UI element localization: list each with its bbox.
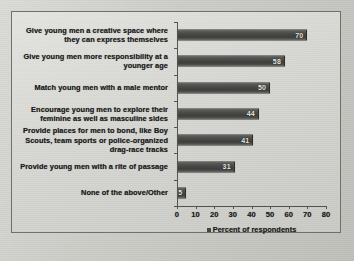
bar-row: Give young men a creative space where th… <box>12 22 326 48</box>
bar-value-label: 5 <box>178 189 182 196</box>
y-tick <box>174 22 177 23</box>
chart-legend: Percent of respondents <box>177 225 326 234</box>
x-tick-mark <box>270 206 271 209</box>
x-tick-mark <box>233 206 234 209</box>
bar-row: Provide young men with a rite of passage… <box>12 153 326 179</box>
bar[interactable]: 50 <box>177 82 270 93</box>
category-label: None of the above/Other <box>12 188 177 197</box>
legend-item: Percent of respondents <box>207 225 297 234</box>
bar-value-label: 58 <box>273 58 281 65</box>
x-tick-label: 0 <box>175 210 179 219</box>
bar-track: 5 <box>177 180 326 206</box>
y-tick <box>174 48 177 49</box>
bar-track: 44 <box>177 101 326 127</box>
y-tick <box>174 75 177 76</box>
category-label: Give young men a creative space where th… <box>12 26 177 44</box>
category-label: Give young men more responsibility at a … <box>12 52 177 70</box>
bar-value-label: 41 <box>241 137 249 144</box>
bar-track: 70 <box>177 22 326 48</box>
legend-swatch-icon <box>207 228 211 232</box>
bar-value-label: 50 <box>258 84 266 91</box>
y-tick <box>174 101 177 102</box>
x-tick-label: 30 <box>229 210 238 219</box>
x-tick-label: 80 <box>322 210 331 219</box>
bar-value-label: 44 <box>247 110 255 117</box>
x-tick-mark <box>289 206 290 209</box>
x-tick-label: 70 <box>303 210 312 219</box>
bar[interactable]: 58 <box>177 56 285 67</box>
category-label: Provide young men with a rite of passage <box>12 162 177 171</box>
y-tick <box>174 153 177 154</box>
x-tick-label: 60 <box>284 210 293 219</box>
bar-track: 58 <box>177 48 326 74</box>
x-tick-mark <box>326 206 327 209</box>
bar-row: Provide places for men to bond, like Boy… <box>12 127 326 153</box>
x-tick-label: 20 <box>210 210 219 219</box>
bar[interactable]: 44 <box>177 108 259 119</box>
y-tick <box>174 180 177 181</box>
bar-row: None of the above/Other5 <box>12 180 326 206</box>
legend-label: Percent of respondents <box>213 225 297 234</box>
category-label: Encourage young men to explore their fem… <box>12 105 177 123</box>
x-tick-label: 50 <box>266 210 275 219</box>
x-axis-ticks: 01020304050607080 <box>177 206 326 222</box>
category-label: Provide places for men to bond, like Boy… <box>12 126 177 154</box>
x-tick-mark <box>252 206 253 209</box>
plot-area: Give young men a creative space where th… <box>12 16 334 232</box>
y-axis-line <box>177 22 178 206</box>
x-tick-mark <box>307 206 308 209</box>
bar-track: 41 <box>177 127 326 153</box>
bar-value-label: 70 <box>295 32 303 39</box>
bar-track: 31 <box>177 153 326 179</box>
bar-row: Match young men with a male mentor50 <box>12 75 326 101</box>
bar-rows: Give young men a creative space where th… <box>12 22 326 206</box>
bar-row: Give young men more responsibility at a … <box>12 48 326 74</box>
bar-track: 50 <box>177 75 326 101</box>
x-tick-mark <box>214 206 215 209</box>
bar[interactable]: 41 <box>177 135 253 146</box>
y-tick <box>174 127 177 128</box>
bar-value-label: 31 <box>223 163 231 170</box>
x-tick-label: 40 <box>247 210 256 219</box>
bar[interactable]: 5 <box>177 187 186 198</box>
x-tick-mark <box>177 206 178 209</box>
bar[interactable]: 31 <box>177 161 235 172</box>
x-tick-label: 10 <box>191 210 200 219</box>
category-label: Match young men with a male mentor <box>12 83 177 92</box>
chart-frame: Give young men a creative space where th… <box>11 11 341 233</box>
x-tick-mark <box>196 206 197 209</box>
bar-row: Encourage young men to explore their fem… <box>12 101 326 127</box>
bar[interactable]: 70 <box>177 30 307 41</box>
